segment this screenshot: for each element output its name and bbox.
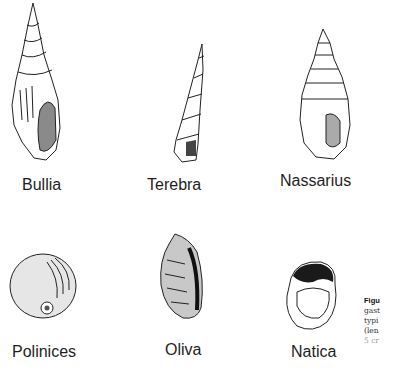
label-polinices: Polinices: [12, 343, 76, 361]
label-natica: Natica: [291, 343, 336, 361]
bullia-shell-drawing: [0, 0, 80, 165]
nassarius-shell-drawing: [290, 25, 360, 165]
terebra-shell-drawing: [160, 40, 220, 170]
label-bullia: Bullia: [22, 176, 61, 194]
caption-line: Figu: [364, 296, 395, 306]
label-terebra: Terebra: [147, 176, 201, 194]
caption-line: (len: [364, 326, 395, 336]
label-nassarius: Nassarius: [280, 172, 351, 190]
natica-shell-drawing: [283, 258, 343, 333]
polinices-shell-drawing: [5, 250, 85, 325]
caption-line: gast: [364, 306, 395, 316]
label-oliva: Oliva: [165, 341, 201, 359]
figure-caption: Figu gast typi (len 5 cr: [364, 296, 395, 346]
caption-line: 5 cr: [364, 336, 395, 346]
oliva-shell-drawing: [155, 230, 215, 325]
caption-line: typi: [364, 316, 395, 326]
